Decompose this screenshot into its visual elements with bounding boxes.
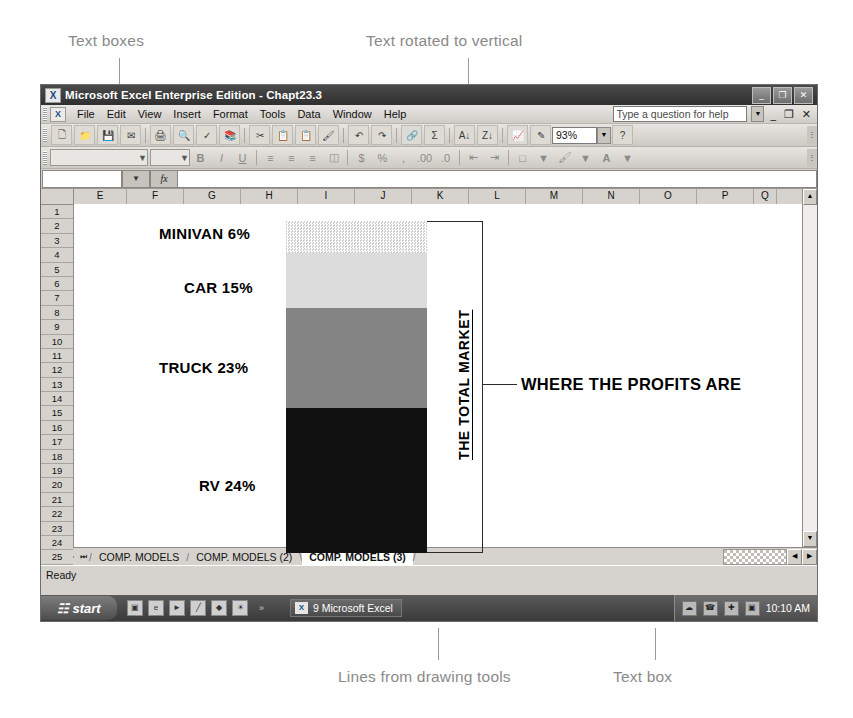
mail-icon[interactable]: ✉: [120, 125, 141, 145]
decrease-decimal-icon[interactable]: .0: [436, 149, 455, 166]
row-header-8[interactable]: 8: [41, 306, 73, 320]
name-box[interactable]: [42, 170, 122, 188]
font-color-dropdown-icon[interactable]: ▼: [618, 149, 637, 166]
phone-icon[interactable]: ☎: [703, 601, 718, 616]
menu-item-file[interactable]: File: [71, 107, 101, 121]
spelling-icon[interactable]: ✓: [196, 125, 217, 145]
menu-item-format[interactable]: Format: [207, 107, 254, 121]
doc-close-button[interactable]: ✕: [800, 108, 813, 121]
taskbar-item-excel[interactable]: X 9 Microsoft Excel: [290, 599, 402, 617]
borders-icon[interactable]: □: [513, 149, 532, 166]
font-name-select[interactable]: ▼: [50, 149, 148, 166]
scroll-down-icon[interactable]: ▼: [803, 531, 817, 547]
media-icon[interactable]: ►: [169, 600, 185, 616]
column-header-h[interactable]: H: [241, 189, 298, 204]
vertical-scrollbar[interactable]: ▲ ▼: [802, 189, 817, 547]
scroll-up-icon[interactable]: ▲: [803, 189, 817, 205]
menu-item-help[interactable]: Help: [378, 107, 413, 121]
menu-item-data[interactable]: Data: [291, 107, 326, 121]
network-icon[interactable]: ☁: [682, 601, 697, 616]
insert-function-icon[interactable]: fx: [150, 170, 178, 188]
open-icon[interactable]: 📁: [74, 125, 95, 145]
font-size-select[interactable]: ▼: [150, 149, 190, 166]
column-header-p[interactable]: P: [697, 189, 754, 204]
column-header-n[interactable]: N: [583, 189, 640, 204]
app-icon[interactable]: ▣: [127, 600, 143, 616]
borders-dropdown-icon[interactable]: ▼: [534, 149, 553, 166]
align-center-icon[interactable]: ≡: [282, 149, 301, 166]
column-header-g[interactable]: G: [184, 189, 241, 204]
row-header-4[interactable]: 4: [41, 248, 73, 262]
help-search-input[interactable]: Type a question for help: [613, 106, 747, 122]
comma-icon[interactable]: ,: [394, 149, 413, 166]
save-icon[interactable]: 💾: [97, 125, 118, 145]
column-header-i[interactable]: I: [298, 189, 355, 204]
row-header-12[interactable]: 12: [41, 363, 73, 377]
column-header-o[interactable]: O: [640, 189, 697, 204]
row-header-16[interactable]: 16: [41, 421, 73, 435]
row-header-9[interactable]: 9: [41, 320, 73, 334]
column-header-f[interactable]: F: [127, 189, 184, 204]
undo-icon[interactable]: ↶: [348, 125, 369, 145]
row-header-5[interactable]: 5: [41, 263, 73, 277]
align-right-icon[interactable]: ≡: [303, 149, 322, 166]
row-header-25[interactable]: 25: [41, 550, 73, 564]
hscroll-right-icon[interactable]: ▶: [802, 549, 817, 565]
format-painter-icon[interactable]: 🖌: [318, 125, 339, 145]
column-header-m[interactable]: M: [526, 189, 583, 204]
column-header-l[interactable]: L: [469, 189, 526, 204]
pen-icon[interactable]: ╱: [190, 600, 206, 616]
excel-doc-icon[interactable]: X: [50, 107, 66, 122]
formula-input[interactable]: [178, 170, 817, 188]
restore-button[interactable]: ❐: [773, 87, 792, 104]
decrease-indent-icon[interactable]: ⇤: [464, 149, 483, 166]
currency-icon[interactable]: $: [352, 149, 371, 166]
align-left-icon[interactable]: ≡: [261, 149, 280, 166]
tab-nav-last[interactable]: ⏭: [77, 552, 89, 562]
close-button[interactable]: ✕: [794, 87, 813, 104]
row-header-19[interactable]: 19: [41, 464, 73, 478]
toolbar-overflow-icon[interactable]: ⋮: [807, 126, 817, 144]
sun-icon[interactable]: ☀: [232, 600, 248, 616]
sort-desc-icon[interactable]: Z↓: [477, 125, 498, 145]
font-color-icon[interactable]: A: [597, 149, 616, 166]
toolbar-grip[interactable]: [43, 128, 47, 142]
sheet-tab-comp-models-2[interactable]: COMP. MODELS (2): [189, 549, 299, 565]
doc-minimize-button[interactable]: _: [768, 108, 778, 121]
drawing-icon[interactable]: ✎: [530, 125, 551, 145]
cell-area[interactable]: MINIVAN 6% CAR 15% TRUCK 23% RV 24% THE …: [74, 204, 802, 547]
quick-launch-more-icon[interactable]: »: [259, 603, 264, 613]
row-header-1[interactable]: 1: [41, 205, 73, 219]
scroll-track[interactable]: [803, 205, 817, 531]
sheet-tab-comp-models[interactable]: COMP. MODELS: [92, 549, 186, 565]
zoom-level-value[interactable]: 93%: [552, 127, 597, 144]
percent-icon[interactable]: %: [373, 149, 392, 166]
increase-indent-icon[interactable]: ⇥: [485, 149, 504, 166]
select-all-corner[interactable]: [41, 189, 73, 205]
row-header-17[interactable]: 17: [41, 435, 73, 449]
row-header-11[interactable]: 11: [41, 349, 73, 363]
sort-asc-icon[interactable]: A↓: [454, 125, 475, 145]
row-header-14[interactable]: 14: [41, 392, 73, 406]
help-icon[interactable]: ?: [612, 125, 633, 145]
formatting-overflow-icon[interactable]: ⋮: [807, 149, 817, 167]
print-icon[interactable]: 🖨: [150, 125, 171, 145]
new-icon[interactable]: 🗋: [51, 125, 72, 145]
row-header-15[interactable]: 15: [41, 406, 73, 420]
row-header-21[interactable]: 21: [41, 493, 73, 507]
column-header-k[interactable]: K: [412, 189, 469, 204]
sheet-tab-comp-models-3[interactable]: COMP. MODELS (3): [302, 549, 413, 565]
row-header-18[interactable]: 18: [41, 450, 73, 464]
column-header-q[interactable]: Q: [754, 189, 777, 204]
name-box-dropdown-icon[interactable]: ▼: [122, 170, 150, 188]
cut-icon[interactable]: ✂: [249, 125, 270, 145]
redo-icon[interactable]: ↷: [371, 125, 392, 145]
menu-item-tools[interactable]: Tools: [254, 107, 292, 121]
row-header-7[interactable]: 7: [41, 291, 73, 305]
copy-icon[interactable]: 📋: [272, 125, 293, 145]
column-header-j[interactable]: J: [355, 189, 412, 204]
menu-grip[interactable]: [43, 107, 47, 121]
research-icon[interactable]: 📚: [219, 125, 240, 145]
help-dropdown-icon[interactable]: ▼: [751, 106, 764, 122]
menu-item-view[interactable]: View: [132, 107, 168, 121]
